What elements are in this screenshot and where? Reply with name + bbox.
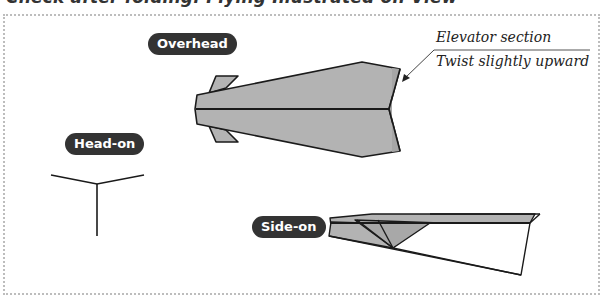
annotation-twist-upward: Twist slightly upward	[436, 53, 589, 69]
annotation-elevator-section: Elevator section	[436, 29, 551, 45]
head-on-plane-icon	[51, 175, 144, 236]
overhead-label: Overhead	[148, 33, 237, 55]
arrow-head-icon	[402, 74, 410, 82]
side-on-plane-icon	[329, 214, 540, 275]
overhead-plane-icon	[195, 62, 400, 157]
side-on-label: Side-on	[252, 216, 326, 238]
head-on-label: Head-on	[65, 133, 144, 155]
